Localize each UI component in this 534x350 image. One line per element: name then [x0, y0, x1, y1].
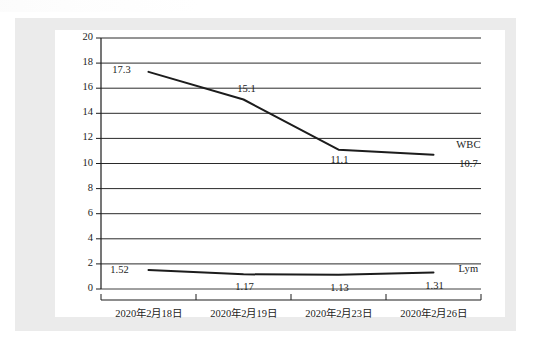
x-axis-tick-label: 2020年2月18日: [101, 305, 196, 320]
y-axis-tick-label: 14: [55, 106, 93, 117]
y-axis-tick-label: 10: [55, 157, 93, 168]
data-point-label: 11.1: [323, 154, 357, 165]
data-point-label: 17.3: [105, 64, 139, 75]
data-point-label: 1.13: [323, 282, 357, 293]
x-axis-tick-label: 2020年2月19日: [196, 305, 291, 320]
y-axis-line: [96, 38, 101, 289]
series-end-label-wbc: WBC: [450, 139, 488, 150]
y-axis-tick-label: 0: [55, 282, 93, 293]
data-point-label: 10.7: [452, 158, 486, 169]
data-point-label: 1.17: [228, 281, 262, 292]
y-axis-tick-label: 6: [55, 207, 93, 218]
data-point-label: 1.52: [103, 264, 137, 275]
y-axis-tick-label: 12: [55, 131, 93, 142]
y-axis-tick-label: 18: [55, 56, 93, 67]
x-axis-line: [101, 294, 481, 300]
line-chart: [0, 0, 534, 350]
y-axis-tick-label: 4: [55, 232, 93, 243]
series-end-label-lym: Lym: [450, 263, 488, 274]
y-axis-tick-label: 8: [55, 182, 93, 193]
series-lines: [149, 72, 434, 275]
y-axis-tick-label: 20: [55, 31, 93, 42]
x-axis-tick-label: 2020年2月23日: [291, 305, 386, 320]
y-axis-tick-label: 16: [55, 81, 93, 92]
y-axis-tick-label: 2: [55, 257, 93, 268]
data-point-label: 1.31: [418, 280, 452, 291]
x-axis-tick-label: 2020年2月26日: [386, 305, 481, 320]
data-point-label: 15.1: [230, 83, 264, 94]
